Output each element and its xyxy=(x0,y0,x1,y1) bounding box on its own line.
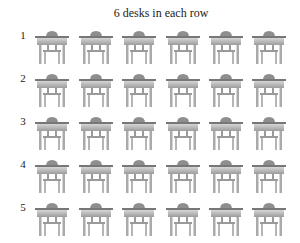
desk-with-chair-icon xyxy=(209,155,243,195)
desk-row: 2 xyxy=(0,69,300,112)
desk-with-chair-icon xyxy=(252,26,286,66)
desk-with-chair-icon xyxy=(79,112,113,152)
desk-with-chair-icon xyxy=(35,69,69,109)
desk-with-chair-icon xyxy=(35,155,69,195)
desk-with-chair-icon xyxy=(122,112,156,152)
desk-with-chair-icon xyxy=(166,69,200,109)
desk-with-chair-icon xyxy=(166,155,200,195)
desk-with-chair-icon xyxy=(209,198,243,238)
desk-with-chair-icon xyxy=(79,69,113,109)
desk-with-chair-icon xyxy=(209,69,243,109)
desk-with-chair-icon xyxy=(166,26,200,66)
desk-with-chair-icon xyxy=(166,198,200,238)
row-label: 5 xyxy=(18,201,28,213)
desk-row: 1 xyxy=(0,26,300,69)
desk-with-chair-icon xyxy=(252,198,286,238)
row-label: 1 xyxy=(18,29,28,41)
row-label: 4 xyxy=(18,158,28,170)
desk-with-chair-icon xyxy=(122,198,156,238)
desk-with-chair-icon xyxy=(79,198,113,238)
row-label: 2 xyxy=(18,72,28,84)
row-label: 3 xyxy=(18,115,28,127)
desk-with-chair-icon xyxy=(79,155,113,195)
desk-with-chair-icon xyxy=(35,198,69,238)
diagram-title: 6 desks in each row xyxy=(0,6,300,21)
desk-with-chair-icon xyxy=(209,26,243,66)
desk-with-chair-icon xyxy=(209,112,243,152)
desk-with-chair-icon xyxy=(252,155,286,195)
desk-with-chair-icon xyxy=(122,69,156,109)
desk-with-chair-icon xyxy=(252,69,286,109)
desk-with-chair-icon xyxy=(122,26,156,66)
desk-row: 3 xyxy=(0,112,300,155)
desk-with-chair-icon xyxy=(166,112,200,152)
desk-with-chair-icon xyxy=(252,112,286,152)
desk-with-chair-icon xyxy=(35,26,69,66)
desk-with-chair-icon xyxy=(122,155,156,195)
desk-row: 4 xyxy=(0,155,300,198)
desk-row: 5 xyxy=(0,198,300,241)
desk-with-chair-icon xyxy=(79,26,113,66)
desk-with-chair-icon xyxy=(35,112,69,152)
